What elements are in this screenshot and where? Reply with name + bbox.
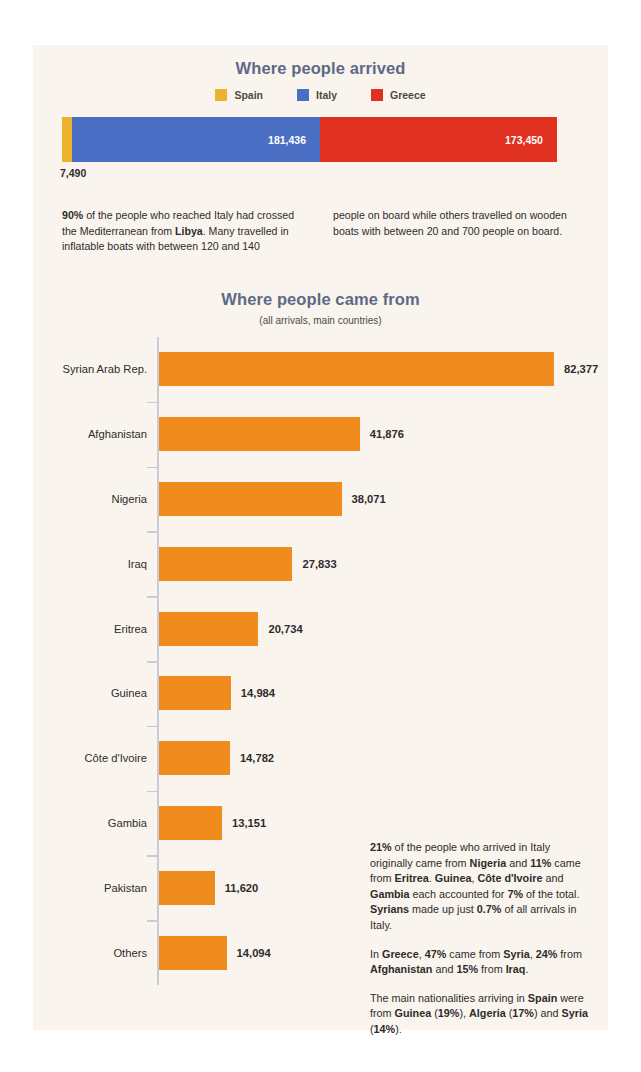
axis-tick xyxy=(147,791,158,793)
bar-category-label: Others xyxy=(113,947,147,959)
segment-value-label: 173,450 xyxy=(505,134,557,146)
bar-row: Iraq27,833 xyxy=(33,531,608,596)
bar-segment xyxy=(159,612,258,646)
bar-segment xyxy=(159,547,292,581)
arrivals-legend: SpainItalyGreece xyxy=(33,89,608,101)
bar-segment xyxy=(159,806,222,840)
legend-item-spain: Spain xyxy=(215,89,263,101)
legend-swatch-icon xyxy=(297,89,309,101)
bar-category-label: Eritrea xyxy=(114,623,147,635)
intro-column-left: 90% of the people who reached Italy had … xyxy=(62,208,311,255)
bar-value-label: 20,734 xyxy=(268,623,302,635)
arrivals-stacked-bar: 7,490181,436173,450 xyxy=(62,117,557,162)
bar-value-label: 27,833 xyxy=(302,558,336,570)
infographic-panel: Where people arrived SpainItalyGreece 7,… xyxy=(33,45,608,1030)
legend-label: Greece xyxy=(390,89,426,101)
segment-value-label: 181,436 xyxy=(268,134,320,146)
axis-tick xyxy=(147,596,158,598)
bar-category-label: Côte d'Ivoire xyxy=(85,752,147,764)
note-paragraph: 21% of the people who arrived in Italy o… xyxy=(370,840,588,934)
bar-category-label: Guinea xyxy=(111,687,147,699)
bar-value-label: 38,071 xyxy=(352,493,386,505)
origins-chart-title: Where people came from xyxy=(33,290,608,309)
bar-category-label: Syrian Arab Rep. xyxy=(62,363,147,375)
bar-row: Côte d'Ivoire14,782 xyxy=(33,726,608,791)
legend-label: Italy xyxy=(316,89,337,101)
stacked-segment-spain: 7,490 xyxy=(62,117,72,162)
axis-tick xyxy=(147,855,158,857)
legend-label: Spain xyxy=(234,89,263,101)
note-paragraph: In Greece, 47% came from Syria, 24% from… xyxy=(370,947,588,978)
legend-item-greece: Greece xyxy=(371,89,426,101)
axis-tick xyxy=(147,920,158,922)
axis-tick xyxy=(147,467,158,469)
bar-value-label: 41,876 xyxy=(370,428,404,440)
bar-segment xyxy=(159,482,342,516)
stacked-segment-greece: 173,450 xyxy=(320,117,557,162)
bar-value-label: 14,782 xyxy=(240,752,274,764)
axis-tick xyxy=(147,726,158,728)
bar-row: Guinea14,984 xyxy=(33,661,608,726)
bar-value-label: 14,984 xyxy=(241,687,275,699)
bar-value-label: 82,377 xyxy=(564,363,598,375)
intro-column-right: people on board while others travelled o… xyxy=(333,208,582,255)
note-paragraph: The main nationalities arriving in Spain… xyxy=(370,991,588,1038)
bar-segment xyxy=(159,417,360,451)
bar-row: Syrian Arab Rep.82,377 xyxy=(33,337,608,402)
bar-category-label: Afghanistan xyxy=(88,428,147,440)
axis-tick xyxy=(147,402,158,404)
origins-chart-subtitle: (all arrivals, main countries) xyxy=(33,315,608,326)
bar-category-label: Pakistan xyxy=(104,882,147,894)
bar-value-label: 14,094 xyxy=(237,947,271,959)
origins-notes-block: 21% of the people who arrived in Italy o… xyxy=(370,840,588,1038)
bar-row: Nigeria38,071 xyxy=(33,467,608,532)
bar-segment xyxy=(159,741,230,775)
legend-swatch-icon xyxy=(371,89,383,101)
bar-segment xyxy=(159,871,215,905)
spain-value-label: 7,490 xyxy=(60,167,86,179)
bar-row: Eritrea20,734 xyxy=(33,596,608,661)
axis-tick xyxy=(147,531,158,533)
bar-row: Afghanistan41,876 xyxy=(33,402,608,467)
bar-segment xyxy=(159,936,227,970)
stacked-segment-italy: 181,436 xyxy=(72,117,320,162)
arrivals-chart-title: Where people arrived xyxy=(33,59,608,78)
legend-item-italy: Italy xyxy=(297,89,337,101)
bar-segment xyxy=(159,676,231,710)
bar-category-label: Iraq xyxy=(128,558,147,570)
bar-value-label: 11,620 xyxy=(225,882,259,894)
bar-category-label: Gambia xyxy=(108,817,147,829)
bar-value-label: 13,151 xyxy=(232,817,266,829)
intro-text-block: 90% of the people who reached Italy had … xyxy=(62,208,582,255)
bar-category-label: Nigeria xyxy=(112,493,147,505)
bar-segment xyxy=(159,352,554,386)
axis-tick xyxy=(147,661,158,663)
legend-swatch-icon xyxy=(215,89,227,101)
